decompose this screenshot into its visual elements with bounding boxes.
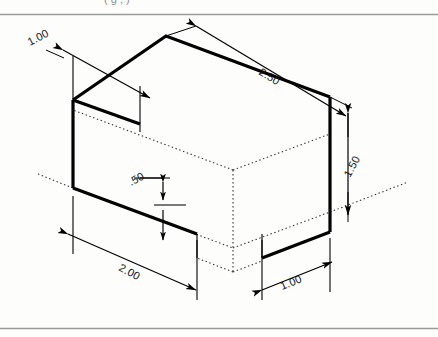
- dim-depth-top-left: 1.00: [25, 27, 150, 132]
- edge-right-bottom: [262, 232, 330, 258]
- hidden-centerline-left: [38, 174, 73, 188]
- ext-line-a: [166, 26, 196, 36]
- dim-width-bottom-right: 1.00: [262, 238, 332, 300]
- dim-label-1-00-top-left: 1.00: [25, 27, 50, 48]
- hidden-centerline-right: [330, 182, 408, 212]
- hidden-edge-top-back-right: [233, 134, 330, 170]
- dim-label-point-50: .50: [126, 170, 146, 188]
- dim-height-right: 1.50: [341, 113, 362, 222]
- caption-fragment-text: ( g , ): [104, 0, 130, 5]
- leader-tick: [46, 50, 64, 58]
- dim-line: [68, 234, 196, 290]
- technical-drawing-figure: ( g , ): [0, 0, 438, 337]
- dim-notch-height: .50: [126, 170, 186, 240]
- dim-label-2-50: 2.50: [257, 65, 282, 87]
- dim-label-1-00-bottom-right: 1.00: [278, 272, 303, 291]
- hidden-edge-front-floor-right: [233, 212, 330, 248]
- object-outline-group: [73, 36, 330, 258]
- edge-top-outer: [73, 36, 330, 100]
- ext-line-b: [330, 97, 352, 108]
- dim-label-1-50: 1.50: [341, 154, 362, 179]
- edge-front-bottom-left: [73, 188, 197, 234]
- dim-length-top-right: 2.50: [166, 26, 352, 116]
- object-detail-lines-group: [140, 124, 262, 258]
- drawing-canvas: 1.00 2.50 1.50 .50: [0, 0, 438, 337]
- edge-notch-top-run: [73, 100, 140, 124]
- hidden-edge-top-back-left: [73, 110, 233, 170]
- hidden-lines-group: [38, 110, 408, 272]
- hidden-floor-fan-right: [233, 261, 262, 272]
- cropped-caption-strip: ( g , ): [0, 0, 438, 14]
- hidden-floor-fan-left: [197, 258, 233, 272]
